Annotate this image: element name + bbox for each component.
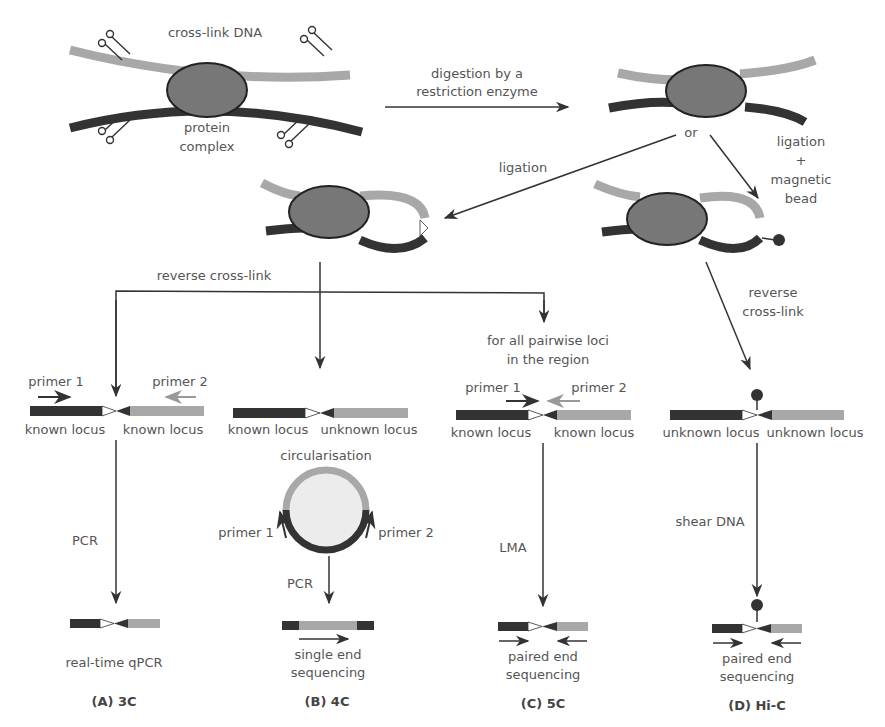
crosslinked-dna-complex: cross-link DNA protein complex <box>70 25 362 154</box>
primer-2-label: primer 2 <box>571 380 627 395</box>
digested-complex <box>609 60 815 122</box>
primer-2-label: primer 2 <box>152 374 208 389</box>
locus-left-label: known locus <box>228 422 309 437</box>
primer-1-label: primer 1 <box>218 525 274 540</box>
pcr-label: PCR <box>72 533 98 548</box>
protein-complex <box>167 63 247 117</box>
single-end-label: single end <box>294 647 361 662</box>
circularisation-label: circularisation <box>280 448 371 463</box>
locus-left-label: known locus <box>25 422 106 437</box>
shear-dna-label: shear DNA <box>675 514 744 529</box>
ligation-bead-label: ligation <box>777 134 825 149</box>
panel-c-5c: primer 1 primer 2 known locus known locu… <box>451 380 635 711</box>
ligation-bead-arrow <box>710 135 758 198</box>
sequencing-label: sequencing <box>720 669 795 684</box>
ligation-bead-plus: + <box>796 153 807 168</box>
locus-right-label: unknown locus <box>321 422 418 437</box>
digestion-label-2: restriction enzyme <box>416 84 537 99</box>
reverse-crosslink-label: reverse cross-link <box>157 268 272 283</box>
pairwise-label-2: in the region <box>507 352 590 367</box>
primer-2-label: primer 2 <box>378 525 434 540</box>
ligation-label: ligation <box>499 160 547 175</box>
3c-methods-diagram: cross-link DNA protein complex digestion… <box>0 0 885 727</box>
primer-1-label: primer 1 <box>465 380 521 395</box>
panel-c-title: (C) 5C <box>521 696 566 711</box>
sequencing-label: sequencing <box>291 665 366 680</box>
primer-1-label: primer 1 <box>28 374 84 389</box>
ligated-loop <box>262 183 428 249</box>
panel-a-title: (A) 3C <box>91 694 136 709</box>
digestion-label: digestion by a <box>431 66 523 81</box>
magnetic-bead <box>751 389 763 401</box>
reverse-label: reverse <box>749 285 798 300</box>
panel-b-title: (B) 4C <box>305 694 350 709</box>
crosslink-label: cross-link DNA <box>168 25 262 40</box>
panel-d-hic: unknown locus unknown locus shear DNA pa… <box>663 389 864 713</box>
locus-right-label: known locus <box>123 422 204 437</box>
magnetic-bead <box>773 234 785 246</box>
protein-label-2: complex <box>179 139 234 154</box>
qpcr-label: real-time qPCR <box>65 655 162 670</box>
locus-left-label: unknown locus <box>663 425 760 440</box>
pcr-label: PCR <box>287 576 313 591</box>
ligation-bead-bead: bead <box>785 191 817 206</box>
panel-d-title: (D) Hi-C <box>728 698 785 713</box>
scissors-icon <box>301 27 333 57</box>
sequencing-label: sequencing <box>506 667 581 682</box>
protein-label: protein <box>184 120 230 135</box>
locus-right-label: known locus <box>554 425 635 440</box>
panel-b-4c: known locus unknown locus circularisatio… <box>218 408 434 709</box>
reverse-label-2: cross-link <box>742 304 804 319</box>
ligation-bead-magnetic: magnetic <box>771 172 832 187</box>
ligated-loop-with-bead <box>595 184 785 249</box>
locus-right-label: unknown locus <box>767 425 864 440</box>
locus-left-label: known locus <box>451 425 532 440</box>
lma-label: LMA <box>499 540 526 555</box>
or-label: or <box>684 125 698 140</box>
paired-end-label: paired end <box>508 649 578 664</box>
magnetic-bead <box>751 599 763 611</box>
panel-a-3c: primer 1 primer 2 known locus known locu… <box>25 374 208 709</box>
pairwise-label: for all pairwise loci <box>487 333 609 348</box>
paired-end-label: paired end <box>722 651 792 666</box>
